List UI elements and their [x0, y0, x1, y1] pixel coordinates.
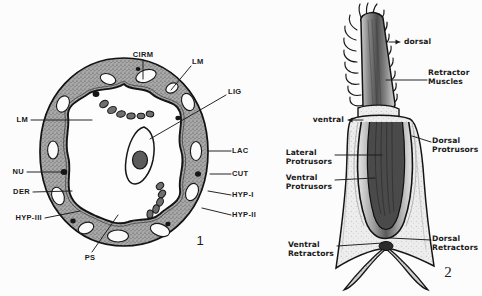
- nucleus: [175, 116, 180, 121]
- lacuna: [108, 230, 129, 242]
- inner-muscle-boundary: [67, 84, 183, 223]
- ligament-nucleus: [133, 151, 148, 169]
- label-ps: PS: [85, 254, 96, 262]
- label-der: DER: [13, 188, 30, 196]
- label-nu: NU: [12, 168, 24, 176]
- leader-hyp2: [202, 208, 231, 215]
- leader-hyp1: [208, 191, 231, 195]
- lacuna: [190, 142, 201, 161]
- muscle-cell: [137, 113, 145, 119]
- label-hyp-2: HYP-II: [232, 211, 256, 219]
- label-dorsal-retractors: Dorsal Retractors: [432, 235, 478, 253]
- label-lm-top: LM: [192, 58, 204, 66]
- nucleus: [195, 171, 201, 176]
- figure1-artwork: [40, 58, 208, 246]
- body-wall-ring: [40, 58, 208, 246]
- muscle-cell: [127, 113, 136, 120]
- proboscis-spines-left: [344, 15, 363, 106]
- label-lig: LIG: [228, 88, 242, 96]
- nucleus: [93, 91, 100, 97]
- label-lateral-protrusors: Lateral Protrusors: [286, 149, 332, 167]
- label-cut: CUT: [232, 170, 248, 178]
- label-hyp-3: HYP-III: [15, 214, 42, 222]
- label-cirm: CIRM: [133, 51, 154, 59]
- label-retractor-muscles: Retractor Muscles: [428, 69, 470, 87]
- muscle-cell: [147, 210, 154, 219]
- figure-number-2: 2: [444, 264, 452, 281]
- label-dorsal-direction: dorsal: [404, 38, 431, 47]
- label-lac: LAC: [232, 147, 248, 155]
- label-ventral-retractors: Ventral Retractors: [288, 241, 334, 259]
- label-ventral-direction: ventral: [313, 116, 344, 125]
- label-lm-left: LM: [16, 116, 28, 124]
- proboscis-body: [361, 13, 395, 111]
- nucleus: [70, 219, 75, 224]
- muscle-cell: [146, 111, 154, 118]
- proboscis: [344, 3, 397, 111]
- label-hyp-1: HYP-I: [232, 191, 254, 199]
- illustration-plate: CIRM LM LIG LM LAC CUT NU HYP-I DER HYP-…: [0, 0, 482, 296]
- label-dorsal-protrusors: Dorsal Protrusors: [432, 137, 478, 155]
- receptacle-lumen: [367, 118, 404, 230]
- nucleus: [165, 222, 170, 227]
- nucleus: [136, 67, 141, 71]
- label-ventral-protrusors: Ventral Protrusors: [286, 174, 332, 192]
- arrowhead-dorsal: [396, 39, 401, 44]
- figure-number-1: 1: [196, 233, 203, 248]
- lacuna: [48, 141, 59, 159]
